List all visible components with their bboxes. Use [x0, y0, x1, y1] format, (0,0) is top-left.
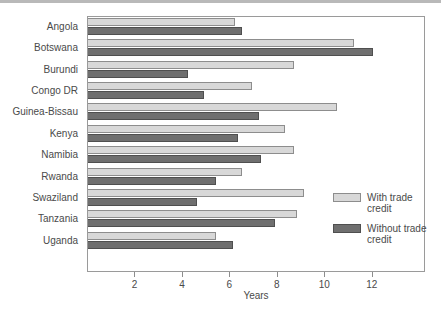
x-axis-tick-label: 4: [179, 279, 185, 290]
bar-row: [88, 102, 425, 123]
x-axis-tick: [324, 272, 325, 277]
bar-with-trade-credit: [88, 103, 337, 111]
x-axis-tick-label: 6: [227, 279, 233, 290]
bar-without-trade-credit: [88, 241, 233, 249]
x-axis-tick: [182, 272, 183, 277]
scan-edge-strip: [0, 0, 441, 3]
bar-without-trade-credit: [88, 155, 261, 163]
x-axis-tick: [229, 272, 230, 277]
bar-without-trade-credit: [88, 134, 238, 142]
bar-with-trade-credit: [88, 61, 294, 69]
y-axis-label: Swaziland: [32, 193, 78, 203]
bar-without-trade-credit: [88, 219, 275, 227]
legend-swatch-light: [333, 193, 361, 202]
bar-without-trade-credit: [88, 70, 188, 78]
x-axis-tick: [134, 272, 135, 277]
y-axis-label: Uganda: [43, 236, 78, 246]
bar-row: [88, 17, 425, 38]
x-axis-tick: [277, 272, 278, 277]
bar-row: [88, 60, 425, 81]
bar-with-trade-credit: [88, 18, 235, 26]
bar-with-trade-credit: [88, 232, 216, 240]
bar-without-trade-credit: [88, 27, 242, 35]
y-axis-label: Congo DR: [31, 86, 78, 96]
bar-with-trade-credit: [88, 168, 242, 176]
bar-without-trade-credit: [88, 112, 259, 120]
y-axis-label: Namibia: [41, 150, 78, 160]
y-axis-label: Kenya: [50, 129, 78, 139]
bar-without-trade-credit: [88, 48, 373, 56]
x-axis-tick: [372, 272, 373, 277]
x-axis-tick-label: 8: [274, 279, 280, 290]
legend-label-with-trade-credit: With trade credit: [367, 192, 429, 214]
legend-item-without-trade-credit: Without trade credit: [333, 223, 433, 245]
legend: With trade credit Without trade credit: [333, 192, 433, 254]
chart-page: AngolaBotswanaBurundiCongo DRGuinea-Biss…: [0, 0, 441, 316]
bar-with-trade-credit: [88, 189, 304, 197]
bar-with-trade-credit: [88, 39, 354, 47]
legend-swatch-dark: [333, 224, 361, 233]
y-axis-label: Guinea-Bissau: [12, 107, 78, 117]
x-axis-tick-label: 2: [132, 279, 138, 290]
y-axis-label: Rwanda: [41, 172, 78, 182]
y-axis-label: Angola: [47, 22, 78, 32]
bar-row: [88, 81, 425, 102]
y-axis-label: Burundi: [44, 65, 78, 75]
x-axis-title: Years: [87, 290, 425, 301]
bar-without-trade-credit: [88, 177, 216, 185]
bar-row: [88, 145, 425, 166]
bar-row: [88, 167, 425, 188]
legend-item-with-trade-credit: With trade credit: [333, 192, 433, 214]
bar-with-trade-credit: [88, 82, 252, 90]
y-axis-labels: AngolaBotswanaBurundiCongo DRGuinea-Biss…: [0, 17, 83, 252]
bar-row: [88, 38, 425, 59]
bar-with-trade-credit: [88, 146, 294, 154]
bar-with-trade-credit: [88, 210, 297, 218]
x-axis-tick-label: 12: [366, 279, 377, 290]
bar-row: [88, 124, 425, 145]
bar-without-trade-credit: [88, 198, 197, 206]
y-axis-label: Tanzania: [38, 214, 78, 224]
y-axis-label: Botswana: [34, 43, 78, 53]
bar-without-trade-credit: [88, 91, 204, 99]
legend-label-without-trade-credit: Without trade credit: [367, 223, 429, 245]
bar-with-trade-credit: [88, 125, 285, 133]
x-axis-tick-label: 10: [319, 279, 330, 290]
